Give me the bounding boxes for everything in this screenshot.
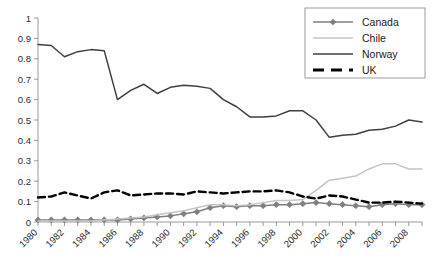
y-tick-label: 0.8 (18, 53, 31, 64)
legend-label-uk: UK (362, 64, 377, 76)
x-tick-label: 1984 (70, 227, 93, 250)
x-tick-label: 1998 (255, 227, 278, 250)
x-tick-label: 1980 (17, 227, 40, 250)
x-tick-label: 2002 (308, 227, 331, 250)
x-tick-label: 1982 (43, 227, 66, 250)
legend-label-chile: Chile (362, 32, 386, 44)
x-tick-label: 1986 (96, 227, 119, 250)
series-marker-canada (194, 209, 200, 215)
y-tick-label: 0.6 (18, 94, 31, 105)
series-marker-canada (273, 202, 279, 208)
series-marker-canada (128, 216, 134, 222)
y-tick-label: 0.2 (18, 176, 31, 187)
series-marker-canada (366, 204, 372, 210)
legend-label-canada: Canada (362, 16, 399, 28)
x-tick-label: 2000 (282, 227, 305, 250)
y-tick-label: 0.3 (18, 155, 31, 166)
y-tick-label: 0.1 (18, 196, 31, 207)
x-tick-labels: 1980198219841986198819901992199419961998… (17, 227, 410, 250)
series-marker-canada (234, 204, 240, 210)
y-tick-label: 1 (26, 13, 31, 24)
series-marker-canada (353, 203, 359, 209)
x-tick-label: 2006 (361, 227, 384, 250)
x-tick-label: 2004 (334, 227, 357, 250)
y-tick-label: 0.9 (18, 33, 31, 44)
y-tick-label: 0.5 (18, 115, 31, 126)
series-marker-canada (326, 201, 332, 207)
line-chart: 00.10.20.30.40.50.60.70.80.91 1980198219… (0, 0, 435, 265)
series-marker-canada (313, 200, 319, 206)
y-tick-label: 0 (26, 217, 31, 228)
x-axis-group: 1980198219841986198819901992199419961998… (17, 222, 422, 249)
series-marker-canada (247, 203, 253, 209)
series-marker-canada (339, 202, 345, 208)
legend-label-norway: Norway (362, 48, 398, 60)
series-line-chile (38, 164, 422, 221)
series-marker-canada (141, 215, 147, 221)
y-tick-label: 0.4 (18, 135, 31, 146)
chart-canvas: 00.10.20.30.40.50.60.70.80.91 1980198219… (0, 0, 435, 265)
y-axis-group: 00.10.20.30.40.50.60.70.80.91 (18, 13, 38, 228)
y-tick-label: 0.7 (18, 74, 31, 85)
x-tick-label: 1990 (149, 227, 172, 250)
series-line-uk (38, 190, 422, 203)
series-marker-canada (300, 201, 306, 207)
x-tick-marks (38, 222, 422, 226)
x-tick-label: 1996 (229, 227, 252, 250)
y-tick-marks (34, 18, 38, 222)
chart-legend: CanadaChileNorwayUK (305, 8, 425, 78)
x-tick-label: 1988 (123, 227, 146, 250)
x-tick-label: 1994 (202, 227, 225, 250)
x-tick-label: 2008 (387, 227, 410, 250)
series-marker-canada (286, 202, 292, 208)
x-tick-label: 1992 (176, 227, 199, 250)
series-marker-canada (220, 203, 226, 209)
y-tick-labels: 00.10.20.30.40.50.60.70.80.91 (18, 13, 31, 228)
